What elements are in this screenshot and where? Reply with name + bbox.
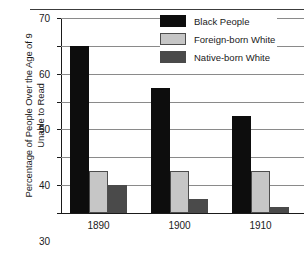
x-axis-line	[61, 213, 304, 214]
dark-gray-swatch-icon	[160, 51, 186, 63]
y-axis-tick: 70	[57, 18, 61, 19]
legend-item-foreign-born-white: Foreign-born White	[160, 31, 275, 47]
y-axis-tick: 10	[57, 185, 61, 186]
bar	[270, 207, 289, 213]
legend-item-native-born-white: Native-born White	[160, 49, 275, 65]
x-axis-tick-label: 1890	[87, 220, 109, 231]
y-axis-tick: 60	[57, 46, 61, 47]
cropped-header-text	[44, 0, 164, 7]
y-axis-tick: 50	[57, 74, 61, 75]
x-axis-tick-label: 1900	[168, 220, 190, 231]
y-axis-tick: 0	[57, 213, 61, 214]
bar	[251, 171, 270, 213]
y-axis-tick-label: 30	[39, 235, 50, 246]
legend-label: Foreign-born White	[194, 34, 275, 45]
bar	[189, 199, 208, 213]
black-swatch-icon	[160, 15, 186, 27]
gridline	[61, 129, 304, 130]
bar	[108, 185, 127, 213]
y-axis-tick-label: 60	[39, 68, 50, 79]
y-axis-tick-label: 40	[39, 180, 50, 191]
legend-label: Black People	[194, 16, 249, 27]
gridline	[61, 157, 304, 158]
chart-legend: Black People Foreign-born White Native-b…	[160, 11, 277, 67]
light-gray-swatch-icon	[160, 33, 186, 45]
x-axis-tick-label: 1910	[249, 220, 271, 231]
bar	[70, 46, 89, 213]
y-axis-tick: 30	[57, 129, 61, 130]
bar	[151, 88, 170, 213]
bar	[232, 116, 251, 214]
header-rule	[30, 9, 304, 10]
legend-label: Native-born White	[194, 52, 270, 63]
y-axis-title-line-1: Percentage of People Over the Age of 9	[23, 9, 35, 223]
y-axis-tick-label: 70	[39, 13, 50, 24]
y-axis-tick: 20	[57, 157, 61, 158]
y-axis-tick-label: 50	[39, 124, 50, 135]
gridline	[61, 102, 304, 103]
gridline	[61, 74, 304, 75]
legend-item-black-people: Black People	[160, 13, 275, 29]
y-axis-tick: 40	[57, 102, 61, 103]
bar-chart-figure: Percentage of People Over the Age of 9 U…	[0, 0, 305, 253]
bar	[170, 171, 189, 213]
bar	[89, 171, 108, 213]
